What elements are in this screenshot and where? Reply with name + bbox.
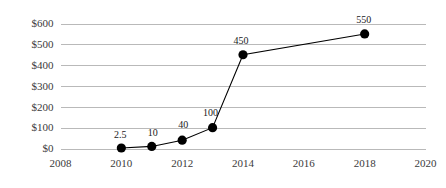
y-axis-tick-label: $300	[32, 80, 55, 92]
data-point-label: 40	[178, 119, 188, 130]
data-point-label: 10	[148, 127, 158, 138]
data-point-label: 100	[203, 107, 218, 118]
data-point-marker	[208, 123, 217, 132]
y-axis-tick-label: $400	[32, 59, 55, 71]
data-point-marker	[238, 50, 247, 59]
x-axis-tick-label: 2008	[50, 157, 73, 169]
data-point-label: 2.5	[114, 129, 127, 140]
y-axis-tick-label: $600	[32, 17, 55, 29]
data-point-marker	[360, 29, 369, 38]
data-point-marker	[117, 143, 126, 152]
x-axis-tick-label: 2020	[415, 157, 438, 169]
data-point-label: 450	[234, 35, 249, 46]
y-axis-tick-label: $0	[43, 142, 55, 154]
chart-canvas: $0$100$200$300$400$500$600 2008201020122…	[0, 0, 446, 188]
y-axis-tick-label: $500	[32, 38, 55, 50]
data-point-label: 550	[356, 14, 371, 25]
x-axis-tick-label: 2018	[354, 157, 377, 169]
data-point-marker	[147, 142, 156, 151]
x-axis-tick-label: 2010	[110, 157, 133, 169]
y-axis-tick-label: $200	[32, 101, 55, 113]
line-chart: $0$100$200$300$400$500$600 2008201020122…	[0, 0, 446, 188]
x-axis-tick-label: 2014	[232, 157, 255, 169]
x-axis-tick-label: 2016	[293, 157, 316, 169]
data-point-marker	[178, 136, 187, 145]
x-axis-tick-label: 2012	[171, 157, 193, 169]
y-axis-tick-label: $100	[32, 121, 55, 133]
